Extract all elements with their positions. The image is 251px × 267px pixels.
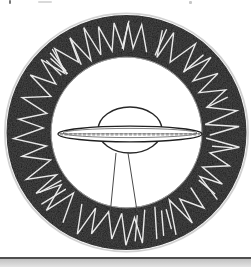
page-edge-shading (0, 259, 251, 267)
scan-artifact-tick (38, 1, 52, 3)
scan-artifact-tick (189, 1, 192, 4)
ufo-ring-emblem (0, 0, 251, 267)
scan-artifact-tick (9, 0, 11, 4)
scanned-page-fragment (0, 0, 251, 267)
